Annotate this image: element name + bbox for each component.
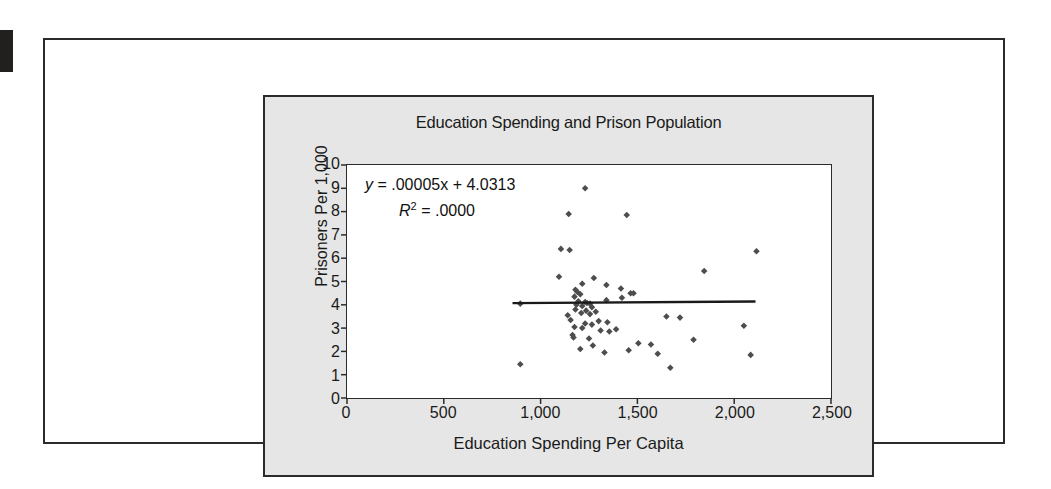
- scatter-point: [618, 285, 625, 292]
- scatter-point: [648, 341, 655, 348]
- scatter-point: [753, 248, 760, 255]
- figure-outer-box: Education Spending and Prison Population…: [43, 38, 1005, 444]
- scatter-point: [590, 342, 597, 349]
- y-tick-label: 9: [314, 179, 340, 197]
- y-tick-label: 5: [314, 273, 340, 291]
- x-axis-title: Education Spending Per Capita: [265, 434, 872, 453]
- scatter-point: [625, 347, 632, 354]
- x-axis-tick-labels: 05001,0001,5002,0002,500: [346, 404, 832, 426]
- y-tick-label: 8: [314, 202, 340, 220]
- x-tick-label: 1,000: [505, 404, 575, 422]
- scatter-point: [613, 326, 620, 333]
- scatter-point: [566, 247, 573, 254]
- x-tick-label: 2,500: [797, 404, 867, 422]
- scatter-point: [654, 350, 661, 357]
- scatter-point: [565, 211, 572, 218]
- scatter-point: [592, 309, 599, 316]
- scatter-point: [741, 322, 748, 329]
- equation-body: = .00005x + 4.0313: [377, 176, 515, 193]
- scatter-point: [690, 336, 697, 343]
- y-tick-label: 1: [314, 367, 340, 385]
- y-tick-label: 6: [314, 249, 340, 267]
- x-tick-label: 1,500: [603, 404, 673, 422]
- y-axis-tick-labels: 012345678910: [306, 164, 340, 399]
- scatter-point: [582, 185, 589, 192]
- scatter-point: [604, 319, 611, 326]
- x-tick-label: 500: [408, 404, 478, 422]
- scatter-point: [663, 313, 670, 320]
- regression-annotation: y = .00005x + 4.0313 R2 = .0000: [365, 173, 515, 224]
- scatter-point: [556, 274, 563, 281]
- chart-panel: Education Spending and Prison Population…: [263, 95, 874, 477]
- scatter-point: [601, 349, 608, 356]
- equation-y-symbol: y: [365, 176, 373, 193]
- scatter-point: [577, 346, 584, 353]
- y-tick-label: 2: [314, 343, 340, 361]
- r-squared-body: = .0000: [421, 202, 475, 219]
- y-tick-label: 7: [314, 226, 340, 244]
- scatter-point: [623, 212, 630, 219]
- scatter-point: [619, 295, 626, 302]
- y-tick-label: 4: [314, 296, 340, 314]
- scatter-point: [677, 314, 684, 321]
- r-exponent: 2: [411, 200, 417, 212]
- y-tick-label: 10: [314, 155, 340, 173]
- scatter-point: [558, 246, 565, 253]
- scatter-point: [603, 282, 610, 289]
- chart-title: Education Spending and Prison Population: [265, 113, 872, 132]
- scatter-point: [701, 268, 708, 275]
- scatter-point: [595, 318, 602, 325]
- x-tick-label: 0: [311, 404, 381, 422]
- r-squared-value: R2 = .0000: [365, 198, 515, 224]
- scatter-point: [591, 275, 598, 282]
- scatter-point: [747, 352, 754, 359]
- scatter-point: [579, 281, 586, 288]
- r-symbol: R: [399, 202, 411, 219]
- scatter-point: [571, 324, 578, 331]
- y-tick-label: 3: [314, 320, 340, 338]
- x-tick-label: 2,000: [700, 404, 770, 422]
- scatter-point: [517, 361, 524, 368]
- scatter-points-group: [517, 185, 760, 371]
- page-edge-artifact: [0, 30, 13, 72]
- scatter-point: [597, 327, 604, 334]
- trendline: [513, 302, 756, 304]
- scatter-point: [667, 364, 674, 371]
- regression-equation: y = .00005x + 4.0313: [365, 173, 515, 198]
- scatter-point: [586, 335, 593, 342]
- scatter-point: [572, 306, 579, 313]
- scatter-point: [606, 328, 613, 335]
- scatter-point: [635, 340, 642, 347]
- scatter-point: [589, 321, 596, 328]
